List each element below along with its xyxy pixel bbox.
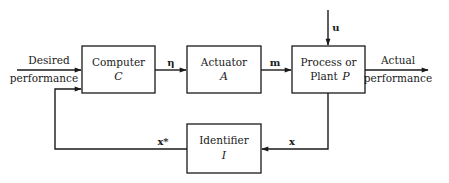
identifier-block: Identifier I [187, 124, 261, 173]
output-label-line1: Actual [380, 54, 416, 66]
computer-label: Computer [92, 56, 146, 68]
actuator-block: Actuator A [187, 46, 261, 93]
u-label: u [332, 22, 339, 33]
block-diagram: Desired performance Computer C η Actuato… [0, 0, 449, 183]
input-label-line2: performance [10, 72, 78, 84]
identifier-label: Identifier [199, 134, 250, 146]
plant-label-line2: Plant [310, 70, 338, 82]
x-feedback-line [262, 93, 328, 149]
computer-block: Computer C [82, 46, 155, 93]
eta-label: η [167, 57, 174, 68]
m-label: m [270, 57, 281, 68]
x-label: x [289, 136, 296, 147]
output-label-line2: performance [364, 72, 432, 84]
computer-symbol: C [114, 70, 123, 83]
x-star-label: x* [157, 136, 169, 147]
plant-label-line1: Process or [301, 56, 358, 68]
plant-block: Process or Plant P [292, 46, 365, 93]
input-label-line1: Desired [28, 54, 70, 66]
actuator-symbol: A [219, 70, 228, 83]
identifier-symbol: I [221, 149, 227, 162]
actuator-label: Actuator [200, 56, 248, 68]
plant-symbol: P [341, 70, 350, 83]
